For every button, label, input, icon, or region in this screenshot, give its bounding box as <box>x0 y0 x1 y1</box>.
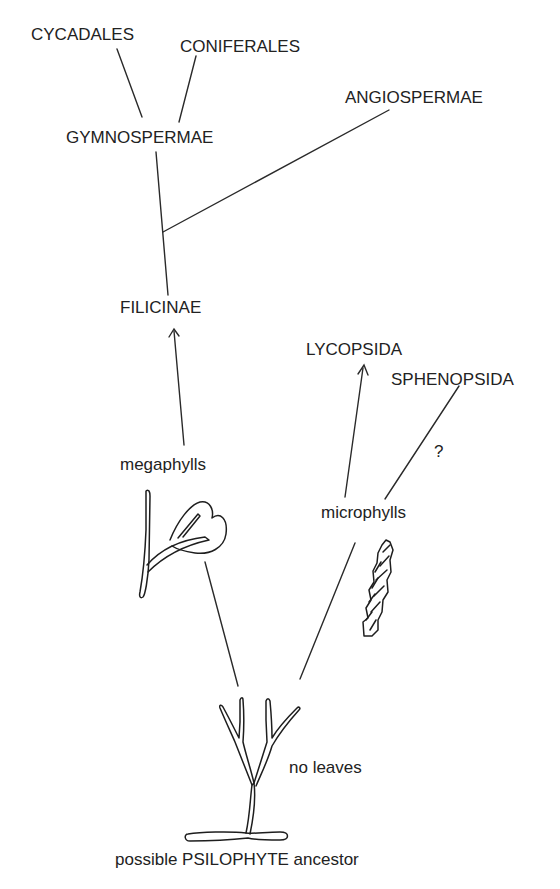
label-microphylls: microphylls <box>321 503 406 522</box>
label-uncertain-question-mark: ? <box>434 442 443 461</box>
edge-megaphylls-filicinae <box>174 331 184 445</box>
edge-microphylls-sphenopsida <box>385 386 459 499</box>
megaphyll-frond-icon <box>140 490 227 597</box>
label-filicinae: FILICINAE <box>120 298 201 317</box>
edge-microphylls-lycopsida <box>345 368 363 497</box>
microphyll-cone-icon <box>363 540 393 636</box>
label-cycadales: CYCADALES <box>31 25 134 44</box>
psilophyte-ancestor-icon <box>185 698 300 841</box>
label-megaphylls: megaphylls <box>120 455 206 474</box>
label-no-leaves: no leaves <box>289 758 362 777</box>
label-coniferales: CONIFERALES <box>180 37 300 56</box>
label-psilophyte-ancestor: possible PSILOPHYTE ancestor <box>115 850 359 869</box>
edge-gymnospermae-coniferales <box>179 56 196 122</box>
edge-gymnospermae-cycadales <box>117 49 142 117</box>
edge-ancestor-microphylls <box>300 543 355 679</box>
edge-filicinae-gymnospermae <box>156 152 168 295</box>
edge-ancestor-megaphylls <box>205 562 238 686</box>
label-lycopsida: LYCOPSIDA <box>306 340 403 359</box>
label-gymnospermae: GYMNOSPERMAE <box>66 128 213 147</box>
label-sphenopsida: SPHENOPSIDA <box>391 370 514 389</box>
label-angiospermae: ANGIOSPERMAE <box>345 88 483 107</box>
plant-evolution-diagram: CYCADALES CONIFERALES ANGIOSPERMAE GYMNO… <box>0 0 560 889</box>
